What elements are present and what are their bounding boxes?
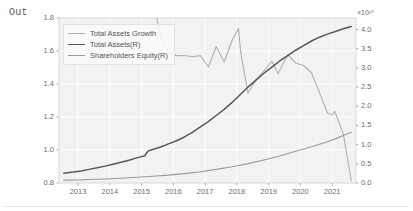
right-axis-tick-label: 3.0: [361, 63, 371, 72]
left-axis-tick-label: 1.0: [30, 145, 54, 154]
legend-label: Shareholders Equity(R): [90, 51, 168, 60]
x-axis-tick-label: 2015: [131, 187, 153, 196]
right-axis-tick-label: 4.0: [361, 25, 371, 34]
left-axis-tick-label: 0.8: [30, 178, 54, 187]
legend-color-swatch: [68, 44, 85, 45]
left-axis-tick-label: 1.6: [30, 46, 54, 55]
x-axis-tick-label: 2020: [289, 187, 311, 196]
legend-label: Total Assets(R): [90, 40, 140, 49]
legend-color-swatch: [68, 33, 85, 34]
chart-canvas: [0, 0, 413, 211]
cell-divider: [4, 206, 409, 207]
left-axis-tick-label: 1.2: [30, 112, 54, 121]
right-axis-tick-label: 2.0: [361, 101, 371, 110]
notebook-output-cell: Out ×10¹⁰ Total Assets GrowthTotal Asset…: [0, 0, 413, 211]
chart-figure: ×10¹⁰ Total Assets GrowthTotal Assets(R)…: [0, 0, 413, 211]
right-axis-tick-label: 1.5: [361, 120, 371, 129]
x-axis-tick-label: 2017: [194, 187, 216, 196]
x-axis-tick-label: 2018: [226, 187, 248, 196]
x-axis-tick-label: 2019: [258, 187, 280, 196]
right-axis-tick-label: 0.0: [361, 178, 371, 187]
legend-item[interactable]: Total Assets(R): [68, 39, 168, 50]
legend-label: Total Assets Growth: [90, 29, 156, 38]
x-axis-tick-label: 2014: [99, 187, 121, 196]
left-axis-tick-label: 1.4: [30, 79, 54, 88]
x-axis-tick-label: 2013: [67, 187, 89, 196]
right-axis-tick-label: 3.5: [361, 44, 371, 53]
right-axis-tick-label: 0.5: [361, 159, 371, 168]
legend-color-swatch: [68, 55, 85, 56]
left-axis-tick-label: 1.8: [30, 13, 54, 22]
x-axis-tick-label: 2021: [321, 187, 343, 196]
chart-legend: Total Assets GrowthTotal Assets(R)Shareh…: [63, 24, 175, 65]
legend-item[interactable]: Shareholders Equity(R): [68, 50, 168, 61]
right-axis-exponent-label: ×10¹⁰: [357, 9, 374, 17]
legend-item[interactable]: Total Assets Growth: [68, 28, 168, 39]
right-axis-tick-label: 1.0: [361, 140, 371, 149]
right-axis-tick-label: 2.5: [361, 82, 371, 91]
x-axis-tick-label: 2016: [162, 187, 184, 196]
